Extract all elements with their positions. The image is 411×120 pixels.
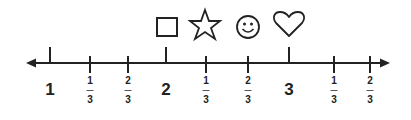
- fraction-bar: [367, 90, 374, 91]
- smiley-icon: [237, 16, 259, 38]
- fraction-bar: [331, 90, 338, 91]
- label-fraction-2-thirds: 2 3: [125, 76, 132, 105]
- label-fraction-1-third: 1 3: [87, 76, 94, 105]
- fraction-denominator: 3: [203, 95, 209, 105]
- square-icon: [157, 18, 177, 36]
- heart-icon: [274, 12, 304, 36]
- label-whole-2: 2: [161, 80, 170, 100]
- fraction-numerator: 1: [203, 76, 209, 86]
- left-arrow-icon: [26, 59, 36, 68]
- label-whole-3: 3: [284, 80, 293, 100]
- fraction-numerator: 2: [245, 76, 251, 86]
- label-whole-1: 1: [45, 80, 54, 100]
- number-line-diagram: 1 2 3 1 3 2 3 1 3 2 3 1 3 2 3: [0, 0, 411, 120]
- fraction-numerator: 1: [331, 76, 337, 86]
- fraction-denominator: 3: [245, 95, 251, 105]
- label-fraction-2-thirds: 2 3: [245, 76, 252, 105]
- fraction-denominator: 3: [331, 95, 337, 105]
- fraction-denominator: 3: [367, 95, 373, 105]
- fraction-bar: [125, 90, 132, 91]
- right-arrow-icon: [380, 59, 390, 68]
- fraction-numerator: 1: [87, 76, 93, 86]
- fraction-bar: [87, 90, 94, 91]
- fraction-denominator: 3: [125, 95, 131, 105]
- star-icon: [190, 10, 220, 39]
- fraction-numerator: 2: [125, 76, 131, 86]
- fraction-denominator: 3: [87, 95, 93, 105]
- fraction-bar: [245, 90, 252, 91]
- label-fraction-1-third: 1 3: [203, 76, 210, 105]
- label-fraction-2-thirds: 2 3: [367, 76, 374, 105]
- fraction-numerator: 2: [367, 76, 373, 86]
- fraction-bar: [203, 90, 210, 91]
- label-fraction-1-third: 1 3: [331, 76, 338, 105]
